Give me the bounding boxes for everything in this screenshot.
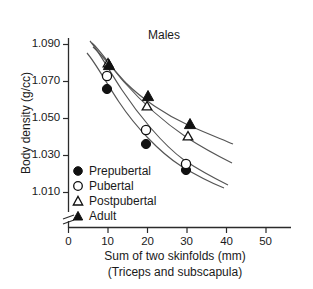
- x-tick-label-0: 0: [53, 235, 84, 247]
- legend-item-adult: Adult: [72, 208, 156, 223]
- x-axis-ticks: [69, 228, 267, 234]
- filled-triangle-icon: [72, 209, 89, 222]
- data-markers: [102, 59, 195, 175]
- marker-pubertal-30: [181, 159, 190, 168]
- x-axis-label-main: Sum of two skinfolds (mm): [60, 248, 290, 264]
- x-tick-label-20: 20: [132, 235, 163, 247]
- legend-item-postpubertal: Postpubertal: [72, 193, 156, 208]
- y-tick-label-1050: 1.050: [16, 111, 60, 123]
- marker-prepubertal-20: [141, 139, 150, 148]
- curve-adult: [93, 47, 233, 144]
- legend-label-adult: Adult: [89, 209, 116, 223]
- marker-pubertal-20: [141, 125, 150, 134]
- x-tick-label-30: 30: [171, 235, 202, 247]
- x-axis-label: Sum of two skinfolds (mm) (Triceps and s…: [60, 248, 290, 280]
- y-tick-label-1070: 1.070: [16, 74, 60, 86]
- marker-prepubertal-10: [102, 84, 111, 93]
- y-tick-label-1090: 1.090: [16, 37, 60, 49]
- x-tick-label-10: 10: [92, 235, 123, 247]
- y-axis-ticks: [63, 45, 69, 193]
- legend-item-prepubertal: Prepubertal: [72, 163, 156, 178]
- filled-circle-icon: [72, 164, 89, 177]
- legend-label-postpubertal: Postpubertal: [89, 194, 156, 208]
- marker-adult-20: [142, 91, 153, 101]
- open-triangle-icon: [72, 194, 89, 207]
- legend-label-pubertal: Pubertal: [89, 179, 134, 193]
- x-tick-label-50: 50: [250, 235, 281, 247]
- y-tick-label-1030: 1.030: [16, 148, 60, 160]
- legend-item-pubertal: Pubertal: [72, 178, 156, 193]
- x-tick-label-40: 40: [211, 235, 242, 247]
- curve-postpubertal: [92, 43, 232, 163]
- marker-pubertal-10: [102, 71, 111, 80]
- chart-title: Males: [148, 28, 180, 42]
- x-axis-label-sub: (Triceps and subscapula): [60, 264, 290, 280]
- legend: Prepubertal Pubertal Postpubertal Adult: [72, 163, 156, 223]
- open-circle-icon: [72, 179, 89, 192]
- legend-label-prepubertal: Prepubertal: [89, 164, 151, 178]
- y-tick-label-1010: 1.010: [16, 185, 60, 197]
- figure-body-density-males: Males Body density (g/cc) 1.090 1.070 1.…: [0, 0, 313, 289]
